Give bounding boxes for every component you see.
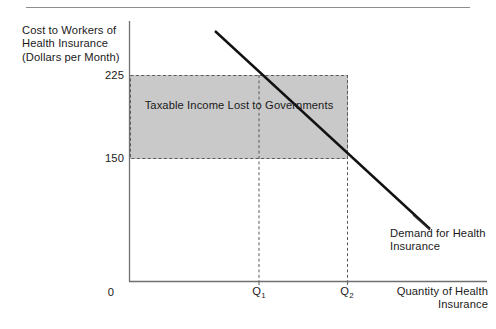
x-axis-title: Quantity of Health Insurance [368, 285, 488, 312]
x-axis-tick-label-q1: Q1 [244, 285, 274, 303]
x-axis-tick-label-q2: Q2 [332, 285, 362, 303]
y-axis-title: Cost to Workers of Health Insurance (Dol… [22, 24, 122, 64]
demand-curve-label: Demand for Health Insurance [390, 227, 494, 254]
x-axis-tick-q1-subscript: 1 [261, 291, 266, 300]
shaded-region-label: Taxable Income Lost to Governments [134, 99, 344, 112]
y-axis-tick-label-225: 225 [66, 69, 124, 82]
axis-origin-label: 0 [100, 286, 122, 299]
x-axis-tick-q2-base: Q [340, 285, 349, 297]
x-axis-tick-q1-base: Q [252, 285, 261, 297]
chart-figure: Cost to Workers of Health Insurance (Dol… [0, 0, 496, 329]
x-axis-tick-q2-subscript: 2 [349, 291, 354, 300]
y-axis-tick-label-150: 150 [66, 152, 124, 165]
shaded-region-rect [130, 75, 348, 159]
